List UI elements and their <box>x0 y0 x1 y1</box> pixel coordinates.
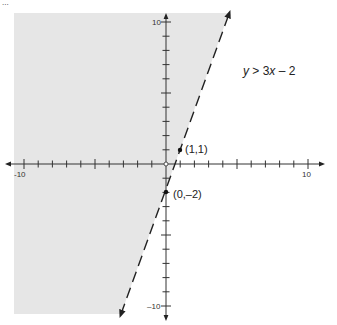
equation-label: y > 3x – 2 <box>242 64 296 78</box>
point-1-1-label: (1,1) <box>185 143 208 155</box>
point-0-neg2-label: (0,–2) <box>173 188 202 200</box>
point-1-1 <box>178 148 182 152</box>
x-min-label: -10 <box>14 170 26 179</box>
y-min-label: –10 <box>147 302 161 311</box>
x-max-label: 10 <box>302 170 311 179</box>
origin-marker <box>164 162 168 166</box>
y-max-label: 10 <box>152 18 161 27</box>
point-0-neg2 <box>164 190 168 194</box>
header-fragment: ... <box>2 0 9 7</box>
inequality-graph: ... -10 10 10 –10 (1,1) (0,–2) y > 3x – … <box>0 0 337 325</box>
